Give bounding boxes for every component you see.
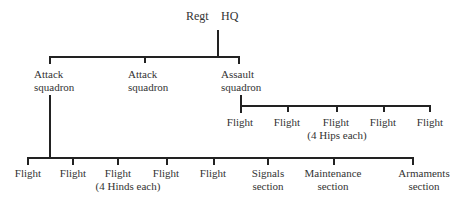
attack-flights-note: (4 Hinds each) <box>96 180 161 193</box>
assault-flight-5: Flight <box>417 116 443 129</box>
attack-flight-4-drop <box>166 157 168 165</box>
maintenance-drop <box>333 157 335 165</box>
squadron-node-assault: Assault squadron <box>221 68 261 94</box>
squadron-3-drop <box>238 56 240 64</box>
assault-flights-note: (4 Hips each) <box>307 129 366 142</box>
assault-flight-5-drop <box>429 105 431 112</box>
squadron-3-line1: Assault <box>221 68 261 81</box>
root-label-hq: HQ <box>221 10 238 23</box>
section-signals-line1: Signals <box>252 167 284 180</box>
armaments-drop <box>412 157 414 165</box>
assault-flight-4-drop <box>383 105 385 112</box>
assault-flight-2-drop <box>287 105 289 112</box>
attack-unit-bus-line <box>27 157 413 159</box>
attack-flight-5-drop <box>213 157 215 165</box>
assault-flight-4: Flight <box>370 116 396 129</box>
squadron-1-drop <box>49 56 51 64</box>
assault-flight-3: Flight <box>323 116 349 129</box>
squadron-node-attack-1: Attack squadron <box>34 68 74 94</box>
attack-flight-1-drop <box>27 157 29 165</box>
assault-flight-1: Flight <box>227 116 253 129</box>
assault-connector <box>240 95 242 113</box>
root-connector <box>217 30 219 57</box>
squadron-2-drop <box>144 56 146 63</box>
attack-flight-3: Flight <box>105 167 131 180</box>
signals-drop <box>267 157 269 165</box>
attack-flight-4: Flight <box>153 167 179 180</box>
section-armaments-line2: section <box>398 180 449 193</box>
root-label-regt: Regt <box>186 10 209 23</box>
attack-flight-3-drop <box>117 157 119 165</box>
attack-flight-2: Flight <box>60 167 86 180</box>
section-signals-line2: section <box>252 180 284 193</box>
squadron-1-line1: Attack <box>34 68 74 81</box>
assault-flight-bus-line <box>240 105 430 107</box>
squadron-2-line2: squadron <box>128 81 168 94</box>
squadron-3-line2: squadron <box>221 81 261 94</box>
attack-connector <box>49 95 51 158</box>
section-signals: Signals section <box>252 167 284 193</box>
attack-flight-2-drop <box>72 157 74 165</box>
assault-flight-3-drop <box>336 105 338 112</box>
section-maintenance-line2: section <box>305 180 362 193</box>
squadron-1-line2: squadron <box>34 81 74 94</box>
squadron-2-line1: Attack <box>128 68 168 81</box>
assault-flight-2: Flight <box>274 116 300 129</box>
section-armaments-line1: Armaments <box>398 167 449 180</box>
section-maintenance-line1: Maintenance <box>305 167 362 180</box>
squadron-node-attack-2: Attack squadron <box>128 68 168 94</box>
attack-flight-5: Flight <box>200 167 226 180</box>
attack-flight-1: Flight <box>15 167 41 180</box>
section-armaments: Armaments section <box>398 167 449 193</box>
section-maintenance: Maintenance section <box>305 167 362 193</box>
